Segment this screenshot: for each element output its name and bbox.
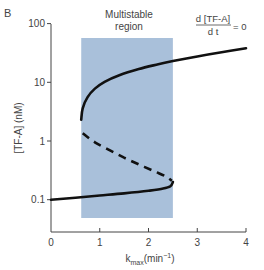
y-tick-label: 0.1 <box>31 194 45 205</box>
x-axis-label: kmax(min−1) <box>125 252 174 266</box>
x-tick-label: 0 <box>48 237 54 248</box>
region-label-line2: region <box>115 21 143 32</box>
equation-rhs: = 0 <box>233 21 246 32</box>
bifurcation-chart: 0.1110100 01234 B Multistable region d [… <box>0 0 264 270</box>
equation-numerator: d [TF-A] <box>196 13 230 24</box>
y-axis-label: [TF-A] (nM) <box>13 102 24 153</box>
region-label-line1: Multistable <box>105 9 153 20</box>
y-ticks: 0.1110100 <box>28 18 51 205</box>
x-tick-label: 3 <box>194 237 200 248</box>
panel-label: B <box>4 7 11 19</box>
x-tick-label: 4 <box>243 237 249 248</box>
y-tick-label: 100 <box>28 18 45 29</box>
x-tick-label: 1 <box>97 237 103 248</box>
y-tick-label: 1 <box>39 136 45 147</box>
x-tick-label: 2 <box>146 237 152 248</box>
y-tick-label: 10 <box>34 77 46 88</box>
x-ticks: 01234 <box>48 228 249 248</box>
equation-denominator: d t <box>208 26 219 37</box>
